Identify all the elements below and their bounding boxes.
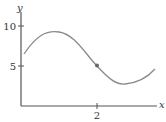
y-tick-label-5: 5	[10, 61, 16, 72]
chart-canvas: y 10 5 2 x	[0, 0, 166, 122]
sine-curve	[24, 32, 155, 84]
y-axis-label: y	[16, 2, 23, 13]
x-tick-label-2: 2	[94, 110, 100, 121]
x-axis-label: x	[159, 99, 165, 110]
highlighted-point	[95, 64, 99, 68]
y-tick-label-10: 10	[3, 21, 16, 32]
